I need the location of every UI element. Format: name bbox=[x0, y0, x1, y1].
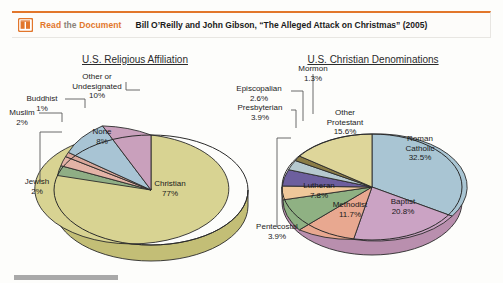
other-undesignated-line2: Undesignated bbox=[72, 82, 121, 91]
lutheran-name: Lutheran bbox=[303, 181, 335, 190]
document-word: Document bbox=[79, 20, 121, 30]
label-jewish: Jewish 2% bbox=[13, 177, 61, 196]
jewish-name: Jewish bbox=[25, 177, 49, 186]
christian-name: Christian bbox=[154, 179, 186, 188]
methodist-name: Methodist bbox=[333, 200, 368, 209]
christian-value: 77% bbox=[162, 189, 178, 198]
label-presbyterian: Presbyterian 3.9% bbox=[229, 103, 291, 122]
baptist-value: 20.8% bbox=[392, 207, 415, 216]
other-protestant-line1: Other bbox=[335, 108, 355, 117]
other-protestant-line2: Protestant bbox=[327, 118, 363, 127]
none-name: None bbox=[92, 127, 111, 136]
charts-container: U.S. Religious Affiliation U.S. Christia… bbox=[0, 42, 503, 283]
footer-rule bbox=[14, 275, 118, 280]
label-mormon: Mormon 1.3% bbox=[284, 64, 342, 83]
read-the-document-bar[interactable]: Read the Document Bill O’Reilly and John… bbox=[12, 11, 491, 38]
label-none: None 8% bbox=[80, 127, 124, 146]
label-muslim: Muslim 2% bbox=[1, 108, 43, 127]
pentecostal-name: Pentecostal bbox=[256, 222, 298, 231]
document-citation: Bill O’Reilly and John Gibson, “The Alle… bbox=[136, 20, 428, 30]
label-methodist: Methodist 11.7% bbox=[321, 200, 379, 219]
label-episcopalian: Episcopalian 2.6% bbox=[228, 84, 290, 103]
mormon-value: 1.3% bbox=[304, 74, 322, 83]
page-root: Read the Document Bill O’Reilly and John… bbox=[0, 0, 503, 283]
read-word: Read bbox=[40, 20, 61, 30]
label-lutheran: Lutheran 7.8% bbox=[293, 181, 345, 200]
lutheran-value: 7.8% bbox=[310, 191, 328, 200]
read-the-document-label: Read the Document bbox=[40, 20, 122, 30]
label-christian: Christian 77% bbox=[141, 179, 199, 198]
label-pentecostal: Pentecostal 3.9% bbox=[243, 222, 311, 241]
label-baptist: Baptist 20.8% bbox=[378, 197, 428, 216]
episcopalian-name: Episcopalian bbox=[236, 84, 281, 93]
episcopalian-value: 2.6% bbox=[250, 94, 268, 103]
book-icon bbox=[18, 18, 33, 32]
other-undesignated-value: 10% bbox=[89, 91, 105, 100]
presbyterian-value: 3.9% bbox=[251, 113, 269, 122]
muslim-value: 2% bbox=[16, 118, 28, 127]
presbyterian-name: Presbyterian bbox=[238, 103, 283, 112]
none-value: 8% bbox=[96, 137, 108, 146]
leader-episcopalian bbox=[291, 91, 303, 121]
leader-presbyterian bbox=[291, 110, 296, 128]
the-word: the bbox=[61, 20, 79, 30]
roman-catholic-line1: Roman bbox=[407, 134, 433, 143]
roman-catholic-value: 32.5% bbox=[409, 153, 432, 162]
roman-catholic-line2: Catholic bbox=[406, 144, 435, 153]
label-other-protestant: Other Protestant 15.6% bbox=[316, 108, 374, 137]
other-undesignated-line1: Other or bbox=[82, 72, 111, 81]
baptist-name: Baptist bbox=[391, 197, 415, 206]
jewish-value: 2% bbox=[31, 187, 43, 196]
muslim-name: Muslim bbox=[9, 108, 34, 117]
pentecostal-value: 3.9% bbox=[268, 232, 286, 241]
buddhist-name: Buddhist bbox=[26, 94, 57, 103]
label-roman-catholic: Roman Catholic 32.5% bbox=[392, 134, 448, 163]
methodist-value: 11.7% bbox=[339, 210, 361, 219]
mormon-name: Mormon bbox=[298, 64, 327, 73]
other-protestant-value: 15.6% bbox=[334, 127, 357, 136]
